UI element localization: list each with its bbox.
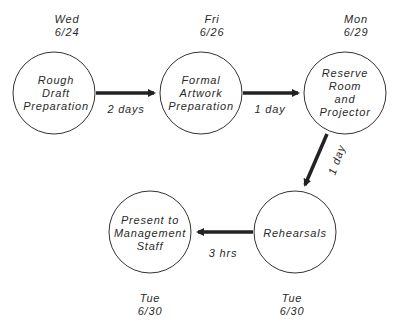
day-label: Fri — [200, 13, 225, 26]
node-line: Room and — [319, 80, 370, 106]
node-line: Artwork — [168, 87, 234, 100]
node-rough-draft: Rough Draft Preparation — [23, 74, 89, 113]
node-reserve-room: Reserve Room and Projector — [319, 67, 370, 119]
day-label: Mon — [344, 13, 369, 26]
date-rehearsals: Tue 6/30 — [280, 292, 305, 318]
node-line: Draft — [23, 87, 89, 100]
date-label: 6/30 — [138, 305, 163, 318]
node-line: Present to — [114, 214, 186, 227]
duration-rough-to-formal: 2 days — [107, 103, 144, 116]
date-label: 6/30 — [280, 305, 305, 318]
node-line: Formal — [168, 74, 234, 87]
date-present: Tue 6/30 — [138, 292, 163, 318]
duration-formal-to-reserve: 1 day — [255, 103, 286, 116]
node-line: Preparation — [23, 100, 89, 113]
date-label: 6/26 — [200, 26, 225, 39]
date-label: 6/24 — [55, 26, 80, 39]
node-line: Rehearsals — [263, 227, 327, 240]
duration-rehearsals-to-present: 3 hrs — [209, 247, 237, 260]
date-rough-draft: Wed 6/24 — [55, 13, 80, 39]
date-reserve-room: Mon 6/29 — [344, 13, 369, 39]
date-formal-artwork: Fri 6/26 — [200, 13, 225, 39]
arrow-reserve-to-rehearsals — [305, 134, 327, 185]
day-label: Tue — [138, 292, 163, 305]
node-line: Preparation — [168, 100, 234, 113]
date-label: 6/29 — [344, 26, 369, 39]
node-line: Management — [114, 227, 186, 240]
day-label: Tue — [280, 292, 305, 305]
node-line: Rough — [23, 74, 89, 87]
node-line: Staff — [114, 240, 186, 253]
node-line: Projector — [319, 106, 370, 119]
node-present: Present to Management Staff — [114, 214, 186, 253]
day-label: Wed — [55, 13, 80, 26]
node-line: Reserve — [319, 67, 370, 80]
node-rehearsals: Rehearsals — [263, 227, 327, 240]
node-formal-artwork: Formal Artwork Preparation — [168, 74, 234, 113]
